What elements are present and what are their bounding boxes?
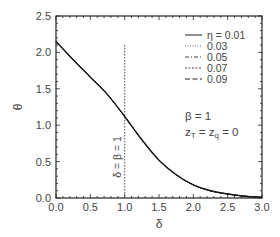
x-tick-label: 1.0 <box>117 201 132 213</box>
y-tick-label: 2.0 <box>36 46 51 58</box>
series-line <box>56 41 262 197</box>
x-axis-tick-labels: 0.0 0.5 1.0 1.5 2.0 2.5 3.0 <box>48 201 269 213</box>
y-axis-label: θ <box>11 103 25 110</box>
axis-ticks <box>56 16 262 198</box>
x-tick-label: 3.0 <box>254 201 269 213</box>
series-line <box>56 41 262 197</box>
z-annotation: zT = zq = 0 <box>185 126 238 140</box>
series-line <box>56 41 262 197</box>
x-tick-label: 0.0 <box>48 201 63 213</box>
beta-annotation: β = 1 <box>185 110 211 122</box>
vline-label: δ = β = 1 <box>111 136 123 178</box>
y-tick-label: 0.5 <box>36 156 51 168</box>
x-tick-label: 2.0 <box>186 201 201 213</box>
plot-area-frame <box>56 16 262 198</box>
x-tick-label: 1.5 <box>151 201 166 213</box>
y-axis-tick-labels: 0.0 0.5 1.0 1.5 2.0 2.5 <box>36 10 51 204</box>
data-curves <box>56 41 262 197</box>
y-tick-label: 2.5 <box>36 10 51 22</box>
x-tick-label: 0.5 <box>83 201 98 213</box>
y-tick-label: 1.5 <box>36 83 51 95</box>
series-line <box>56 41 262 197</box>
theta-vs-delta-chart: 0.0 0.5 1.0 1.5 2.0 2.5 0.0 0.5 1.0 1.5 … <box>0 0 280 237</box>
legend-label: 0.09 <box>207 73 228 85</box>
series-line <box>56 41 262 197</box>
x-tick-label: 2.5 <box>220 201 235 213</box>
legend: η = 0.01 0.03 0.05 0.07 0.09 <box>185 29 245 85</box>
y-tick-label: 1.0 <box>36 119 51 131</box>
x-axis-label: δ <box>156 217 163 231</box>
